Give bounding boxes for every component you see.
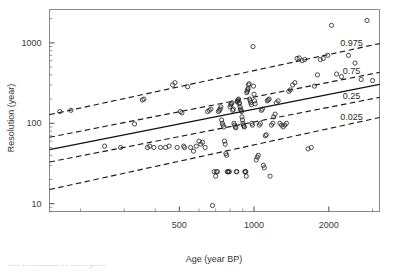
figure-background <box>0 0 396 273</box>
x-tick-label: 500 <box>172 220 187 230</box>
x-axis-title: Age (year BP) <box>186 254 243 264</box>
quantile-label-0.25: 0.25 <box>343 91 361 101</box>
clipped-caption-text: The resolution of most prox <box>6 265 396 268</box>
y-tick-label: 10 <box>31 199 41 209</box>
y-tick-label: 100 <box>26 118 41 128</box>
y-tick-label: 1000 <box>21 38 41 48</box>
y-axis-title: Resolution (year) <box>6 84 16 153</box>
quantile-label-0.75: 0.75 <box>343 66 361 76</box>
clipped-caption: The resolution of most prox <box>0 265 396 273</box>
quantile-label-0.025: 0.025 <box>340 112 363 122</box>
resolution-vs-age-scatter-plot: 101001000 50010002000 0.9750.750.250.025… <box>0 0 396 273</box>
x-tick-label: 1000 <box>244 220 264 230</box>
quantile-label-0.975: 0.975 <box>340 38 363 48</box>
x-tick-label: 2000 <box>319 220 339 230</box>
